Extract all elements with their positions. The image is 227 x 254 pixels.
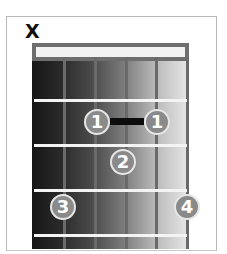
muted-string-marker: X bbox=[25, 22, 40, 41]
fret-1 bbox=[34, 99, 187, 102]
string-2 bbox=[63, 57, 66, 249]
string-3 bbox=[94, 57, 97, 249]
finger-dot-2: 2 bbox=[110, 149, 136, 175]
fret-4 bbox=[34, 234, 187, 237]
finger-dot-4: 4 bbox=[174, 194, 200, 220]
finger-dot-1a: 1 bbox=[84, 109, 110, 135]
string-5 bbox=[155, 57, 158, 249]
string-6 bbox=[186, 57, 189, 249]
fret-3 bbox=[34, 189, 187, 192]
finger-dot-3: 3 bbox=[50, 194, 76, 220]
nut bbox=[36, 47, 185, 57]
fret-2 bbox=[34, 144, 187, 147]
finger-dot-1b: 1 bbox=[144, 109, 170, 135]
barre-bar bbox=[110, 118, 144, 125]
